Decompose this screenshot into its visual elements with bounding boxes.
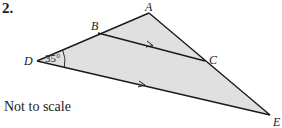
label-a: A — [145, 1, 152, 13]
not-to-scale-note: Not to scale — [4, 99, 71, 115]
angle-label-d: 35° — [45, 53, 60, 64]
label-e: E — [273, 116, 280, 128]
label-d: D — [24, 55, 33, 67]
diagram-canvas: 2. D B A C E 35° Not to scale — [0, 0, 282, 128]
label-b: B — [91, 20, 98, 32]
triangle-dae-fill — [37, 13, 270, 115]
label-c: C — [209, 54, 217, 66]
